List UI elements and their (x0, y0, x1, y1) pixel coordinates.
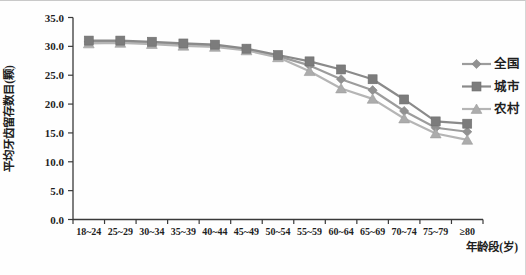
x-axis-tick-label: 75~79 (423, 226, 448, 237)
x-axis-tick-label: 55~59 (297, 226, 322, 237)
legend-item-label: 城市 (494, 79, 520, 94)
chart-svg: 0.05.010.015.020.025.030.035.018~2425~29… (0, 1, 526, 275)
x-axis-tick-label: 30~34 (139, 226, 164, 237)
axes (73, 18, 483, 220)
y-axis-title: 平均牙齿留存数目(颗) (2, 65, 16, 172)
x-axis-tick-label: 18~24 (76, 226, 101, 237)
y-axis-tick-label: 30.0 (45, 40, 65, 52)
series-point-square (116, 36, 125, 45)
series-point-square (400, 95, 409, 104)
y-axis-tick-label: 5.0 (50, 185, 64, 197)
series-point-diamond (336, 75, 345, 84)
series-point-square (337, 65, 346, 74)
legend-item-label: 农村 (493, 101, 520, 116)
series-point-square (84, 36, 93, 45)
x-axis-tick-label: 40~44 (202, 226, 227, 237)
series-point-square (242, 44, 251, 53)
series-point-square (463, 119, 472, 128)
legend-square-marker-icon (472, 82, 481, 91)
x-axis-title: 年龄段(岁) (466, 240, 518, 254)
series-point-square (179, 39, 188, 48)
x-axis-tick-label: 35~39 (171, 226, 196, 237)
y-axis-tick-label: 10.0 (45, 156, 65, 168)
y-axis-tick-label: 25.0 (45, 69, 65, 81)
teeth-retention-chart-figure: 0.05.010.015.020.025.030.035.018~2425~29… (0, 0, 526, 275)
x-axis-tick-label: 65~69 (360, 226, 385, 237)
legend-item-label: 全国 (493, 56, 520, 71)
series-point-square (210, 40, 219, 49)
x-axis-tick-label: ≥80 (459, 226, 475, 237)
y-axis-tick-label: 15.0 (45, 127, 65, 139)
y-axis-tick-label: 0.0 (50, 214, 64, 226)
series-point-square (368, 75, 377, 84)
x-axis-tick-label: 45~49 (234, 226, 259, 237)
series-point-triangle (336, 83, 347, 92)
x-axis-tick-label: 50~54 (265, 226, 290, 237)
series-point-square (274, 51, 283, 60)
series-point-square (431, 117, 440, 126)
y-axis-tick-label: 20.0 (45, 98, 65, 110)
x-axis-tick-label: 25~29 (108, 226, 133, 237)
legend-diamond-marker-icon (472, 59, 481, 68)
series-point-square (147, 37, 156, 46)
series-point-square (305, 57, 314, 66)
y-axis-tick-label: 35.0 (45, 12, 65, 24)
x-axis-tick-label: 60~64 (328, 226, 353, 237)
x-axis-tick-label: 70~74 (392, 226, 417, 237)
